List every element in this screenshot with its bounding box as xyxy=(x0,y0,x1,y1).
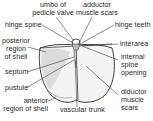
label-hinge-teeth: hinge teeth xyxy=(115,21,151,29)
label-interarea: interarea xyxy=(120,40,148,48)
label-vascular-trunk: vascular trunk xyxy=(60,106,105,114)
brachiopod-diagram: umbo of pedicle valve adductor muscle sc… xyxy=(0,0,153,121)
label-anterior-region-of-shell: anterior region of shell xyxy=(3,97,48,113)
label-posterior-region-of-shell: posterior region of shell xyxy=(2,37,30,61)
label-septum: septum xyxy=(5,68,29,76)
label-internal-spine-opening: internal spine opening xyxy=(121,53,147,77)
label-adductor-muscle-scars: adductor muscle scars xyxy=(76,1,118,17)
label-hinge-spine: hinge spine xyxy=(5,21,42,29)
shell-body xyxy=(39,39,114,102)
label-umbo-of-pedicle-valve: umbo of pedicle valve xyxy=(30,1,76,17)
label-pustule: pustule xyxy=(5,84,28,92)
label-diductor-muscle-scars: diductor muscle scars xyxy=(121,88,147,112)
